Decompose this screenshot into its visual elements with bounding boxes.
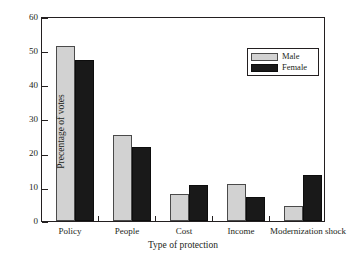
y-tick-label-0: 0 (14, 217, 38, 226)
legend-item-male: Male (251, 51, 315, 62)
bar-male-people (113, 135, 132, 221)
bar-female-income (246, 197, 265, 221)
x-axis-label-modernization: Modernization shock (263, 226, 352, 236)
x-axis-label-income: Income (214, 226, 268, 236)
legend-item-female: Female (251, 62, 315, 73)
y-tick-label-20: 20 (14, 149, 38, 158)
legend-label-male: Male (282, 52, 299, 61)
bar-female-modernization (303, 175, 322, 221)
bar-male-income (227, 184, 246, 221)
bar-female-people (132, 147, 151, 221)
legend-swatch-female-icon (251, 64, 278, 72)
bar-male-modernization (284, 206, 303, 221)
y-axis-title: Precentage of votes (56, 72, 67, 192)
plot-area: Male Female Precentage of votes (41, 17, 325, 222)
legend-label-female: Female (282, 63, 307, 72)
bar-male-cost (170, 194, 189, 222)
x-axis-title: Type of protection (41, 240, 325, 251)
bar-female-policy (75, 60, 94, 222)
y-tick-label-40: 40 (14, 81, 38, 90)
bar-female-cost (189, 185, 208, 221)
y-tick-label-10: 10 (14, 183, 38, 192)
y-tick-label-50: 50 (14, 47, 38, 56)
y-tick-label-30: 30 (14, 115, 38, 124)
x-axis-label-policy: Policy (43, 226, 97, 236)
y-tick-label-60: 60 (14, 13, 38, 22)
bar-chart-figure: 60 50 40 30 20 10 0 (0, 0, 352, 266)
y-tick-0 (42, 222, 48, 223)
chart-legend: Male Female (247, 48, 319, 76)
legend-swatch-male-icon (251, 53, 278, 61)
x-axis-label-cost: Cost (157, 226, 211, 236)
x-axis-label-people: People (100, 226, 154, 236)
